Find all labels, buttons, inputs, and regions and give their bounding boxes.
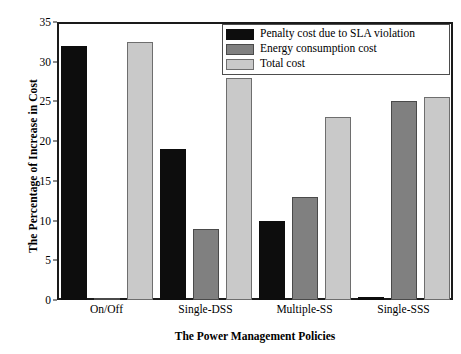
y-tick-label: 5	[0, 254, 51, 266]
legend-swatch-icon	[226, 59, 254, 70]
bar[interactable]	[358, 297, 384, 300]
legend-swatch-icon	[226, 44, 254, 55]
x-axis-ticks: On/OffSingle-DSSMultiple-SSSingle-SSS	[57, 303, 453, 323]
legend-swatch-icon	[226, 29, 254, 40]
x-axis-label: The Power Management Policies	[57, 330, 453, 342]
y-tick-label: 30	[0, 56, 51, 68]
y-axis-ticks: 05101520253035	[0, 0, 53, 354]
bar[interactable]	[391, 101, 417, 300]
y-tick-label: 25	[0, 95, 51, 107]
legend-label: Energy consumption cost	[260, 43, 377, 55]
legend-item[interactable]: Energy consumption cost	[226, 42, 446, 56]
x-tick-label: On/Off	[57, 303, 156, 323]
y-tick-label: 35	[0, 16, 51, 28]
legend-label: Total cost	[260, 58, 305, 70]
legend-item[interactable]: Penalty cost due to SLA violation	[226, 27, 446, 41]
bar-chart: The Percentage of Increase in Cost 05101…	[0, 0, 461, 354]
bar[interactable]	[226, 78, 252, 300]
chart-legend: Penalty cost due to SLA violationEnergy …	[222, 24, 450, 75]
x-tick-label: Single-DSS	[156, 303, 255, 323]
bar[interactable]	[259, 221, 285, 300]
bar[interactable]	[160, 149, 186, 300]
bar[interactable]	[325, 117, 351, 300]
legend-label: Penalty cost due to SLA violation	[260, 28, 415, 40]
y-tick-label: 0	[0, 294, 51, 306]
bar[interactable]	[94, 298, 120, 300]
x-tick-label: Multiple-SS	[255, 303, 354, 323]
bar[interactable]	[127, 42, 153, 300]
bar-group	[57, 22, 156, 300]
bar[interactable]	[424, 97, 450, 300]
y-tick-label: 20	[0, 135, 51, 147]
y-tick-label: 15	[0, 175, 51, 187]
bar[interactable]	[61, 46, 87, 300]
legend-item[interactable]: Total cost	[226, 57, 446, 71]
bar[interactable]	[292, 197, 318, 300]
bar[interactable]	[193, 229, 219, 300]
x-tick-label: Single-SSS	[354, 303, 453, 323]
y-tick-label: 10	[0, 215, 51, 227]
